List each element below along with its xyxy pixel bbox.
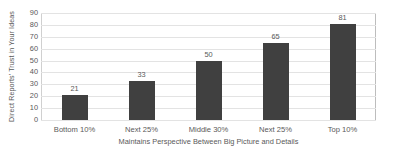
bar-group: 50: [175, 13, 242, 120]
y-axis-tick-label: 30: [12, 80, 38, 88]
bar-value-label: 33: [137, 70, 145, 79]
bar-group: 65: [242, 13, 309, 120]
bar-value-label: 81: [338, 13, 346, 22]
y-axis-tick-label: 60: [12, 45, 38, 53]
y-axis-tick-label: 50: [12, 57, 38, 65]
gridline: [41, 120, 376, 121]
bar[interactable]: [62, 95, 88, 120]
y-axis-tick-label: 40: [12, 68, 38, 76]
y-axis-tick-label: 20: [12, 92, 38, 100]
x-axis-tick-labels: Bottom 10%Next 25%Middle 30%Next 25%Top …: [41, 124, 376, 136]
y-axis-tick-label: 90: [12, 9, 38, 17]
bar-value-label: 21: [70, 84, 78, 93]
bar[interactable]: [129, 81, 155, 120]
bar[interactable]: [330, 24, 356, 120]
y-axis-tick-labels: 9080706050403020100: [8, 0, 38, 155]
y-axis-tick-label: 10: [12, 104, 38, 112]
bar-group: 21: [41, 13, 108, 120]
bar-value-label: 50: [204, 50, 212, 59]
x-axis-tick-label: Middle 30%: [175, 124, 242, 135]
x-axis-tick-label: Bottom 10%: [41, 124, 108, 135]
bar[interactable]: [196, 61, 222, 120]
bar-group: 81: [309, 13, 376, 120]
x-axis-tick-label: Next 25%: [242, 124, 309, 135]
y-axis-tick-label: 70: [12, 33, 38, 41]
bar-chart: Direct Reports' Trust in Your Ideas 9080…: [0, 0, 409, 155]
bar-group: 33: [108, 13, 175, 120]
x-axis-tick-label: Top 10%: [309, 124, 376, 135]
plot-area: 2133506581: [41, 13, 376, 120]
x-axis-title: Maintains Perspective Between Big Pictur…: [41, 137, 376, 147]
y-axis-tick-label: 80: [12, 21, 38, 29]
bar[interactable]: [263, 43, 289, 120]
y-axis-tick-label: 0: [12, 116, 38, 124]
x-axis-tick-label: Next 25%: [108, 124, 175, 135]
bar-value-label: 65: [271, 32, 279, 41]
